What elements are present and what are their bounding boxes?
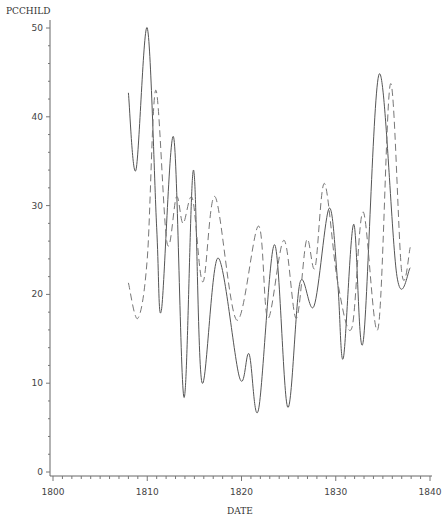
x-tick-label: 1800 [42,487,65,497]
y-tick-label: 50 [32,23,44,33]
x-tick-label: 1830 [324,487,347,497]
x-axis-label: DATE [227,506,253,516]
dashed-series-line [128,84,410,331]
y-tick-label: 0 [37,467,43,477]
x-tick-label: 1810 [136,487,159,497]
y-axis-label: PCCHILD [6,6,50,16]
x-tick-label: 1820 [230,487,253,497]
x-tick-label: 1840 [419,487,442,497]
line-chart: 0102030405018001810182018301840 PCCHILD … [0,0,446,526]
axes: 0102030405018001810182018301840 [32,20,442,497]
series-group [128,28,410,413]
y-tick-label: 30 [32,201,44,211]
y-tick-label: 20 [32,289,44,299]
y-tick-label: 10 [32,378,44,388]
solid-series-line [128,28,410,413]
y-tick-label: 40 [32,112,44,122]
